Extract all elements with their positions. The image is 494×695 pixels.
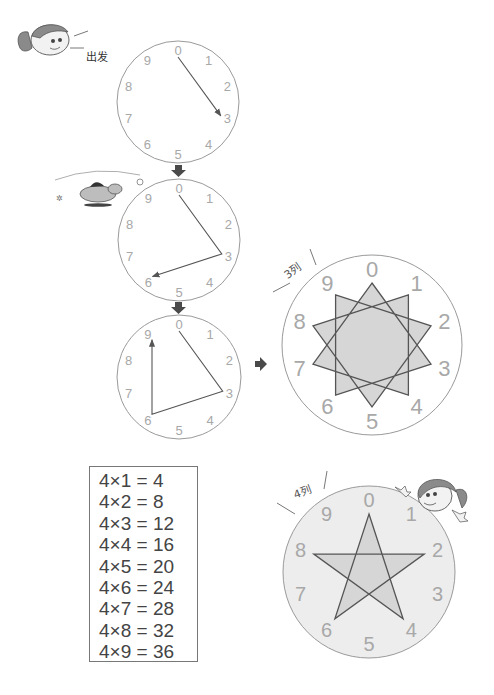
table-row: 4×3 = 12 xyxy=(99,513,197,534)
table-row: 4×1 = 4 xyxy=(99,470,197,491)
clock-digit: 8 xyxy=(125,353,132,368)
clock-digit: 3 xyxy=(224,111,231,126)
clock-step-2: 0123456789 xyxy=(118,179,240,301)
clock-digit: 2 xyxy=(224,79,231,94)
clock-digit: 4 xyxy=(406,619,417,641)
clock-digit: 6 xyxy=(144,413,151,428)
clock-digit: 3 xyxy=(226,386,233,401)
clock-digit: 5 xyxy=(363,633,374,655)
clock-digit: 9 xyxy=(321,503,332,525)
clock-digit: 2 xyxy=(225,217,232,232)
clock-digit: 7 xyxy=(294,356,306,381)
table-row: 4×8 = 32 xyxy=(99,620,197,641)
clock-digit: 2 xyxy=(432,539,443,561)
clock-digit: 5 xyxy=(366,409,378,434)
clock-digit: 5 xyxy=(175,285,182,300)
table-row: 4×9 = 36 xyxy=(99,641,197,662)
clock-digit: 0 xyxy=(366,257,378,282)
clock-digit: 4 xyxy=(411,394,423,419)
clock-digit: 9 xyxy=(145,191,152,206)
clock-digit: 8 xyxy=(295,539,306,561)
star-3-diagram: 0123456789 xyxy=(282,255,462,435)
table-row: 4×5 = 20 xyxy=(99,556,197,577)
table-row: 4×7 = 28 xyxy=(99,598,197,619)
clock-digit: 5 xyxy=(175,423,182,438)
clock-digit: 7 xyxy=(125,111,132,126)
clock-step-3: 0123456789 xyxy=(117,315,241,439)
star-4-diagram: 0123456789 xyxy=(283,486,455,658)
clock-digit: 8 xyxy=(125,79,132,94)
clock-digit: 6 xyxy=(321,619,332,641)
clock-digit: 2 xyxy=(438,309,450,334)
table-row: 4×4 = 16 xyxy=(99,534,197,555)
svg-text:✲: ✲ xyxy=(56,194,63,203)
clock-digit: 9 xyxy=(144,327,151,342)
clock-digit: 4 xyxy=(205,137,212,152)
clock-digit: 1 xyxy=(206,191,213,206)
clock-digit: 5 xyxy=(174,147,181,162)
right-arrow-icon xyxy=(255,357,267,371)
clock-digit: 3 xyxy=(225,249,232,264)
clock-digit: 6 xyxy=(145,275,152,290)
clock-digit: 3 xyxy=(438,356,450,381)
girl-face-icon xyxy=(18,25,88,55)
diagram-canvas: ✲ 012345678901234567890123456789 0123456… xyxy=(0,0,494,695)
clock-digit: 2 xyxy=(226,353,233,368)
down-arrow-icon xyxy=(171,165,186,177)
clock-digit: 1 xyxy=(411,271,423,296)
clock-digit: 9 xyxy=(321,271,333,296)
table-row: 4×6 = 24 xyxy=(99,577,197,598)
clock-digit: 3 xyxy=(432,583,443,605)
clock-digit: 1 xyxy=(205,53,212,68)
clock-digit: 4 xyxy=(207,413,214,428)
table-row: 4×2 = 8 xyxy=(99,491,197,512)
clock-digit: 6 xyxy=(144,137,151,152)
clock-step-1: 0123456789 xyxy=(117,41,239,163)
clock-digit: 1 xyxy=(406,503,417,525)
clock-digit: 0 xyxy=(174,43,181,58)
clock-digit: 0 xyxy=(175,181,182,196)
dog-running-icon: ✲ xyxy=(55,171,143,207)
start-label: 出发 xyxy=(86,48,108,64)
clock-digit: 8 xyxy=(126,217,133,232)
clock-digit: 6 xyxy=(321,394,333,419)
down-arrow-icon xyxy=(171,302,186,314)
clock-digit: 0 xyxy=(175,317,182,332)
clock-digit: 7 xyxy=(125,386,132,401)
clock-digit: 4 xyxy=(206,275,213,290)
clock-digit: 9 xyxy=(144,53,151,68)
clock-digit: 7 xyxy=(295,583,306,605)
clock-digit: 0 xyxy=(363,489,374,511)
clock-digit: 8 xyxy=(294,309,306,334)
multiplication-table: 4×1 = 4 4×2 = 8 4×3 = 12 4×4 = 16 4×5 = … xyxy=(89,466,198,662)
clock-digit: 7 xyxy=(126,249,133,264)
clock-digit: 1 xyxy=(207,327,214,342)
